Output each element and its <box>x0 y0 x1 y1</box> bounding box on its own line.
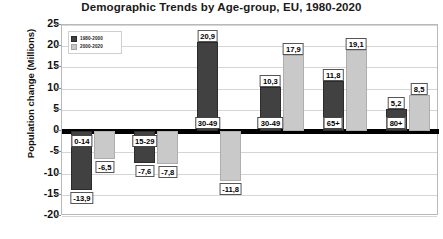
gridline <box>62 25 437 26</box>
legend-label-series-1: 2000-2020 <box>80 44 103 49</box>
value-label-series-0-category-5: 5,2 <box>388 97 405 109</box>
legend-item-series-0: 1980-2000 <box>71 35 119 42</box>
y-axis-tick-mark <box>55 151 61 152</box>
gridline <box>62 89 437 90</box>
gridline <box>62 174 437 175</box>
gridline <box>62 195 437 196</box>
legend-item-series-1: 2000-2020 <box>71 43 119 50</box>
value-label-series-1-category-3: 17,9 <box>283 43 304 55</box>
zero-baseline <box>62 129 439 134</box>
category-label-1: 15-29 <box>132 135 157 147</box>
y-axis-tick-label: -20 <box>0 208 66 220</box>
chart-legend: 1980-2000 2000-2020 <box>68 31 122 54</box>
bar-series-1-category-3 <box>283 55 304 131</box>
bar-series-1-category-1 <box>157 131 178 164</box>
bar-series-1-category-4 <box>346 50 367 131</box>
value-label-series-0-category-4: 11,8 <box>323 69 343 81</box>
y-axis-tick-mark <box>55 24 61 25</box>
y-axis-tick-label: 15 <box>0 59 66 71</box>
y-axis-tick-mark <box>55 109 61 110</box>
y-axis-tick-mark <box>55 215 61 216</box>
value-label-series-0-category-3: 10,3 <box>260 75 281 87</box>
y-axis-tick-label: -15 <box>0 187 66 199</box>
value-label-series-1-category-0: -6,5 <box>95 161 114 173</box>
value-label-series-1-category-4: 19,1 <box>346 38 367 50</box>
y-axis-tick-mark <box>55 45 61 46</box>
legend-swatch-icon-series-0 <box>71 36 77 42</box>
y-axis-tick-label: 5 <box>0 102 66 114</box>
y-axis-tick-mark <box>55 66 61 67</box>
y-axis-tick-label: 0 <box>0 123 66 135</box>
legend-label-series-0: 1980-2000 <box>80 36 103 41</box>
y-axis-tick-label: -10 <box>0 166 66 178</box>
bar-series-1-category-2 <box>220 131 241 181</box>
legend-swatch-icon-series-1 <box>71 44 77 50</box>
category-label-5: 80+ <box>387 117 406 129</box>
category-label-3: 30-49 <box>258 117 283 129</box>
value-label-series-0-category-1: -7,6 <box>135 165 154 177</box>
value-label-series-1-category-2: -11,8 <box>219 183 242 195</box>
category-label-0: 0-14 <box>71 135 92 147</box>
value-label-series-1-category-1: -7,8 <box>158 166 177 178</box>
value-label-series-0-category-0: -13,9 <box>70 192 93 204</box>
y-axis-tick-mark <box>55 173 61 174</box>
category-label-2: 30-49 <box>195 117 220 129</box>
bar-series-1-category-5 <box>409 95 430 131</box>
y-axis-tick-mark <box>55 194 61 195</box>
chart-container: Demographic Trends by Age-group, EU, 198… <box>0 0 443 239</box>
y-axis-tick-mark <box>55 130 61 131</box>
gridline <box>62 67 437 68</box>
y-axis-tick-label: 25 <box>0 17 66 29</box>
y-axis-tick-mark <box>55 88 61 89</box>
gridline <box>62 152 437 153</box>
value-label-series-1-category-5: 8,5 <box>411 83 428 95</box>
y-axis-tick-label: -5 <box>0 144 66 156</box>
gridline <box>62 110 437 111</box>
category-label-4: 65+ <box>324 117 343 129</box>
bar-series-1-category-0 <box>94 131 115 159</box>
gridline <box>62 216 437 217</box>
value-label-series-0-category-2: 20,9 <box>197 30 218 42</box>
y-axis-tick-label: 10 <box>0 81 66 93</box>
y-axis-tick-label: 20 <box>0 38 66 50</box>
chart-title: Demographic Trends by Age-group, EU, 198… <box>0 1 443 13</box>
